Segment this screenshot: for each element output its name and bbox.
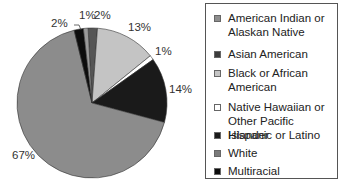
- label-asian: 2%: [94, 9, 111, 21]
- label-multiracial: 2%: [51, 17, 68, 29]
- legend-label: American: [228, 81, 277, 93]
- legend-label: Black or African: [228, 67, 308, 79]
- legend-label: American Indian or: [228, 12, 325, 24]
- legend-swatch: [214, 15, 221, 22]
- legend-item-black: Black or AfricanAmerican: [214, 66, 308, 94]
- legend-label: Alaskan Native: [228, 26, 305, 38]
- legend-label: Multiracial: [228, 164, 280, 178]
- legend-swatch: [214, 150, 221, 157]
- legend-swatch: [214, 70, 221, 77]
- legend-item-white: White: [214, 146, 257, 160]
- label-white: 67%: [12, 149, 35, 161]
- legend-swatch: [214, 51, 221, 58]
- legend-label: Hispanic or Latino: [228, 128, 320, 142]
- legend-item-asian: Asian American: [214, 47, 308, 61]
- legend-label: Asian American: [228, 47, 308, 61]
- legend-item-multiracial: Multiracial: [214, 164, 280, 178]
- legend-swatch: [214, 168, 221, 175]
- label-native-hawaiian: 1%: [155, 45, 172, 57]
- legend-item-hispanic: Hispanic or Latino: [214, 128, 320, 142]
- legend-swatch: [214, 132, 221, 139]
- legend-swatch: [214, 104, 221, 111]
- label-hispanic: 14%: [169, 83, 192, 95]
- legend: American Indian orAlaskan Native Asian A…: [205, 3, 338, 179]
- legend-item-american-indian: American Indian orAlaskan Native: [214, 11, 325, 39]
- legend-label: Native Hawaiian or: [228, 101, 325, 113]
- legend-label: White: [228, 146, 257, 160]
- label-black: 13%: [128, 21, 151, 33]
